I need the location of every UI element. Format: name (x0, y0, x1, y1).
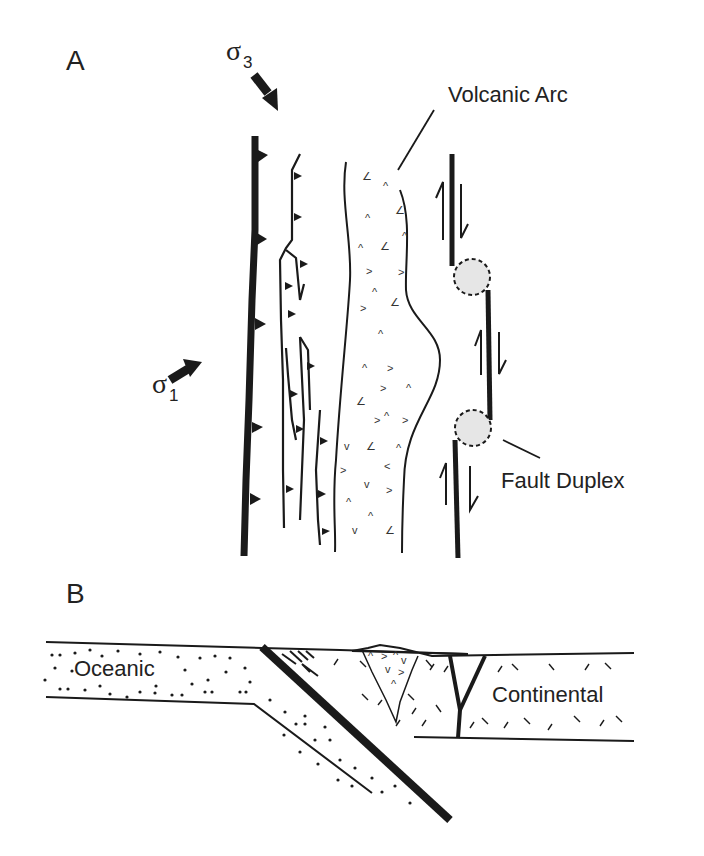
svg-text:^: ^ (358, 242, 364, 254)
fault-duplex-label: Fault Duplex (501, 468, 625, 493)
svg-text:1: 1 (169, 386, 178, 405)
svg-text:^: ^ (384, 410, 390, 422)
svg-text:^: ^ (362, 362, 368, 374)
svg-text:>: > (380, 382, 386, 394)
svg-text:>: > (366, 265, 372, 277)
volcanic-arc-leader (398, 110, 434, 170)
svg-text:^: ^ (378, 328, 384, 340)
svg-text:>: > (381, 650, 387, 662)
fault-duplex-lower-icon (455, 410, 491, 446)
svg-text:^: ^ (368, 510, 374, 522)
svg-text:^: ^ (365, 212, 371, 224)
shear-sense-arrows (436, 182, 506, 510)
svg-text:^: ^ (396, 442, 402, 454)
svg-text:∠: ∠ (395, 204, 405, 216)
continental-label: Continental (492, 682, 603, 707)
svg-text:σ: σ (152, 368, 167, 399)
sigma3-arrow-icon (254, 75, 278, 111)
svg-text:>: > (387, 362, 393, 374)
svg-text:v: v (385, 663, 391, 675)
trench-thrust-fault (244, 136, 268, 556)
svg-text:∠: ∠ (366, 440, 376, 452)
svg-text:>: > (360, 302, 366, 314)
svg-text:v: v (401, 654, 407, 666)
svg-text:∠: ∠ (356, 395, 366, 407)
arc-magma-symbols: ^>^ vv> ^ (368, 649, 407, 690)
volcanic-arc-label: Volcanic Arc (448, 82, 568, 107)
svg-text:3: 3 (243, 53, 252, 72)
svg-text:v: v (344, 440, 350, 452)
svg-text:^: ^ (372, 286, 378, 298)
svg-text:>: > (398, 266, 404, 278)
svg-text:σ: σ (226, 35, 241, 66)
continental-y-fault (450, 656, 485, 738)
svg-text:>: > (402, 414, 408, 426)
svg-text:v: v (352, 524, 358, 536)
svg-text:v: v (364, 478, 370, 490)
svg-text:>: > (340, 464, 346, 476)
panel-label-b: B (66, 578, 85, 609)
svg-text:^: ^ (393, 649, 399, 661)
panel-label-a: A (66, 45, 85, 76)
accretionary-splays (282, 651, 314, 664)
svg-text:>: > (374, 414, 380, 426)
svg-text:^: ^ (368, 650, 374, 662)
svg-text:>: > (398, 666, 404, 678)
svg-text:^: ^ (406, 382, 412, 394)
svg-text:∠: ∠ (390, 296, 400, 308)
svg-text:∠: ∠ (380, 240, 390, 252)
oceanic-label: Oceanic (74, 656, 155, 681)
svg-text:^: ^ (346, 496, 352, 508)
svg-text:∠: ∠ (385, 524, 395, 536)
svg-text:<: < (384, 460, 390, 472)
tectonic-diagram: A σ 3 σ 1 (0, 0, 704, 856)
sigma3-label: σ 3 (226, 35, 252, 72)
svg-text:^: ^ (402, 230, 408, 242)
volcanic-symbols: ∠^ ^∠ ^ ^∠ >> ^∠ >^ ^> >^ ∠> ^> v∠ ^> <v… (340, 170, 412, 536)
svg-text:∠: ∠ (362, 170, 372, 182)
fault-duplex-upper-icon (454, 259, 490, 295)
svg-text:^: ^ (383, 180, 389, 192)
fault-duplex-leader (503, 440, 540, 458)
subduction-megathrust (262, 647, 450, 820)
sigma1-arrow-icon (170, 359, 202, 380)
svg-text:^: ^ (391, 678, 397, 690)
svg-text:>: > (386, 484, 392, 496)
